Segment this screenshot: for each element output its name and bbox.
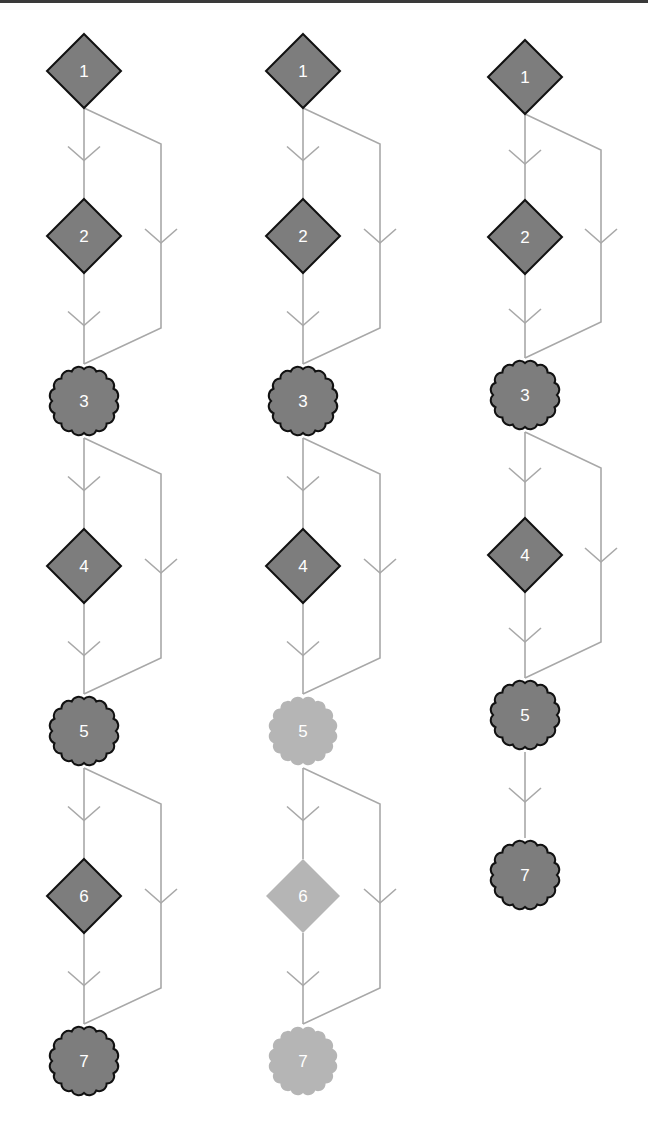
node-label: 5 xyxy=(520,706,529,725)
node-label: 2 xyxy=(298,227,307,246)
node-1: 1 xyxy=(266,34,340,108)
node-label: 7 xyxy=(520,866,529,885)
edge-3-to-4 xyxy=(287,438,319,529)
flow-diagram: 12345671234567123457 xyxy=(0,0,648,1123)
edge-5-to-6 xyxy=(68,768,100,859)
node-label: 1 xyxy=(520,68,529,87)
node-label: 1 xyxy=(298,62,307,81)
node-3: 3 xyxy=(269,367,337,435)
node-label: 5 xyxy=(79,722,88,741)
node-label: 2 xyxy=(79,227,88,246)
node-label: 6 xyxy=(79,887,88,906)
edge-4-to-5 xyxy=(509,592,541,678)
node-label: 3 xyxy=(79,392,88,411)
node-label: 7 xyxy=(79,1052,88,1071)
node-label: 3 xyxy=(298,392,307,411)
node-5-faded: 5 xyxy=(269,697,337,765)
edge-5-to-7 xyxy=(509,752,541,838)
node-7: 7 xyxy=(491,841,559,909)
node-3: 3 xyxy=(50,367,118,435)
node-label: 6 xyxy=(298,887,307,906)
node-label: 4 xyxy=(298,557,307,576)
edge-3-to-4 xyxy=(68,438,100,529)
node-label: 2 xyxy=(520,228,529,247)
edge-4-to-5 xyxy=(68,603,100,694)
node-1: 1 xyxy=(47,34,121,108)
node-2: 2 xyxy=(488,200,562,274)
node-4: 4 xyxy=(47,529,121,603)
node-5: 5 xyxy=(50,697,118,765)
edge-2-to-3 xyxy=(509,274,541,358)
node-label: 5 xyxy=(298,722,307,741)
edge-5-to-6 xyxy=(287,768,319,859)
edge-6-to-7 xyxy=(287,933,319,1024)
node-label: 7 xyxy=(298,1052,307,1071)
node-label: 3 xyxy=(520,386,529,405)
node-7-faded: 7 xyxy=(269,1027,337,1095)
node-1: 1 xyxy=(488,40,562,114)
edge-6-to-7 xyxy=(68,933,100,1024)
node-label: 1 xyxy=(79,62,88,81)
edge-1-to-2 xyxy=(287,108,319,199)
node-2: 2 xyxy=(266,199,340,273)
node-5: 5 xyxy=(491,681,559,749)
node-2: 2 xyxy=(47,199,121,273)
edge-1-to-2 xyxy=(68,108,100,199)
edge-3-to-4 xyxy=(509,432,541,518)
nodes-layer: 12345671234567123457 xyxy=(47,34,562,1095)
node-4: 4 xyxy=(488,518,562,592)
node-6: 6 xyxy=(47,859,121,933)
node-6-faded: 6 xyxy=(266,859,340,933)
edge-4-to-5 xyxy=(287,603,319,694)
edge-1-to-2 xyxy=(509,114,541,200)
node-3: 3 xyxy=(491,361,559,429)
node-4: 4 xyxy=(266,529,340,603)
edge-2-to-3 xyxy=(287,273,319,364)
edge-2-to-3 xyxy=(68,273,100,364)
node-label: 4 xyxy=(520,546,529,565)
node-7: 7 xyxy=(50,1027,118,1095)
node-label: 4 xyxy=(79,557,88,576)
